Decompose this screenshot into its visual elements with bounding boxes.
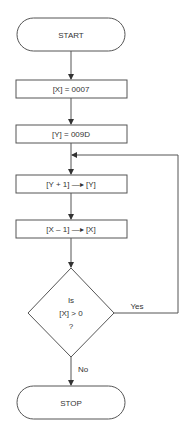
stop-label: STOP (60, 399, 82, 408)
process-box-init-x: [X] = 0007 (16, 80, 127, 98)
no-label: No (78, 365, 89, 374)
stop-terminal: STOP (17, 386, 125, 419)
decision-line2: [X] > 0 (59, 309, 83, 318)
step1-label: [X] = 0007 (53, 85, 90, 94)
process-box-init-y: [Y] = 009D (16, 125, 127, 143)
decision-line3: ? (69, 322, 74, 331)
start-terminal: START (17, 18, 125, 51)
step2-label: [Y] = 009D (52, 130, 90, 139)
step4-label: [X – 1] —▸ [X] (46, 225, 95, 234)
decision-line1: Is (68, 296, 74, 305)
flowchart-canvas: START [X] = 0007 [Y] = 009D [Y + 1] —▸ [… (0, 0, 186, 424)
process-box-decrement-x: [X – 1] —▸ [X] (16, 220, 127, 238)
decision-diamond: Is [X] > 0 ? (28, 268, 114, 357)
step3-label: [Y + 1] —▸ [Y] (46, 180, 95, 189)
yes-label: Yes (130, 302, 143, 311)
start-label: START (58, 31, 84, 40)
process-box-increment-y: [Y + 1] —▸ [Y] (16, 175, 127, 193)
